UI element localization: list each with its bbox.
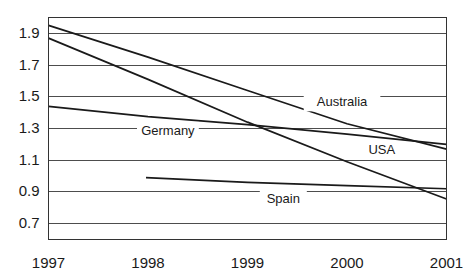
x-axis-label-2000: 2000: [330, 254, 363, 271]
series-label-australia: Australia: [317, 94, 368, 109]
series-label-usa: USA: [368, 142, 395, 157]
y-axis-label-1.5: 1.5: [19, 87, 40, 104]
y-axis-label-1.9: 1.9: [19, 24, 40, 41]
chart-canvas: 1.91.71.51.31.10.90.7 199719981999200020…: [0, 0, 473, 278]
y-axis-label-0.7: 0.7: [19, 214, 40, 231]
series-label-spain: Spain: [267, 191, 300, 206]
x-axis-label-2001: 2001: [430, 254, 463, 271]
y-axis-label-1.3: 1.3: [19, 119, 40, 136]
y-axis-label-1.1: 1.1: [19, 151, 40, 168]
line-chart-figure: 1.91.71.51.31.10.90.7 199719981999200020…: [0, 0, 473, 278]
x-axis-label-1999: 1999: [231, 254, 264, 271]
x-axis-label-1998: 1998: [131, 254, 164, 271]
x-axis-label-1997: 1997: [32, 254, 65, 271]
y-axis-label-0.9: 0.9: [19, 182, 40, 199]
y-axis-label-1.7: 1.7: [19, 56, 40, 73]
series-label-germany: Germany: [141, 123, 195, 138]
